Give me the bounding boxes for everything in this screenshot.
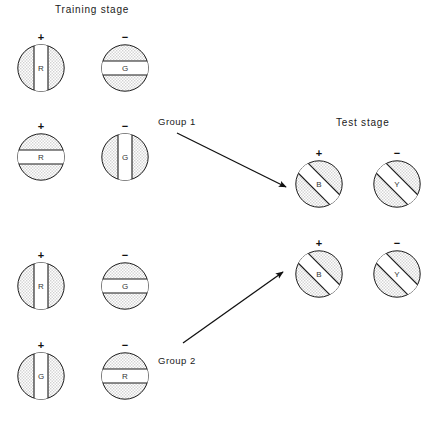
- stimulus-g2r1-negative: G: [101, 262, 149, 310]
- sign-g1r2-positive: +: [17, 121, 65, 131]
- stimulus-test-r1-negative: Y: [373, 160, 421, 208]
- figure-root: Training stage Test stage Group 1 Group …: [0, 0, 444, 422]
- stimulus-g1r2-negative: G: [101, 133, 149, 181]
- stimulus-g1r2-positive: R: [17, 133, 65, 181]
- stimulus-test-r1-positive: B: [295, 160, 343, 208]
- arrows-layer: [0, 0, 444, 422]
- sign-test-r2-negative: −: [373, 238, 421, 248]
- sign-g2r2-negative: −: [101, 340, 149, 350]
- group-1-arrow: [177, 133, 286, 187]
- stimulus-test-r2-negative: Y: [373, 250, 421, 298]
- stimulus-g1r1-positive: R: [17, 44, 65, 92]
- sign-g1r1-negative: −: [101, 32, 149, 42]
- stimulus-g1r1-negative: G: [101, 44, 149, 92]
- sign-g1r2-negative: −: [101, 121, 149, 131]
- stimulus-g2r2-positive: G: [17, 352, 65, 400]
- sign-g2r2-positive: +: [17, 340, 65, 350]
- stimulus-test-r2-positive: B: [295, 250, 343, 298]
- sign-test-r1-negative: −: [373, 148, 421, 158]
- stimulus-g2r1-positive: R: [17, 262, 65, 310]
- sign-g1r1-positive: +: [17, 32, 65, 42]
- sign-test-r1-positive: +: [295, 148, 343, 158]
- sign-test-r2-positive: +: [295, 238, 343, 248]
- sign-g2r1-negative: −: [101, 250, 149, 260]
- group-2-arrow: [183, 272, 283, 343]
- stimulus-g2r2-negative: R: [101, 352, 149, 400]
- sign-g2r1-positive: +: [17, 250, 65, 260]
